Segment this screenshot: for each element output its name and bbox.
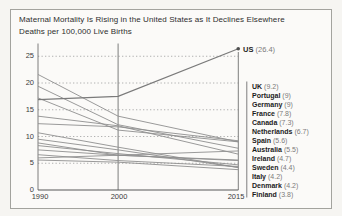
legend-row-italy: Italy (4.2) xyxy=(252,172,309,181)
chart-title: Maternal Mortality Is Rising in the Unit… xyxy=(19,14,285,26)
y-tick-5: 5 xyxy=(10,158,34,167)
legend-row-australia: Australia (5.5) xyxy=(252,145,309,154)
legend-country-name: UK xyxy=(252,83,262,90)
legend-country-value: (7.3) xyxy=(277,119,293,126)
series-line-us xyxy=(38,49,238,100)
legend-country-name: Finland xyxy=(252,191,277,198)
us-endpoint-marker xyxy=(236,47,240,51)
x-tick-1990: 1990 xyxy=(24,192,56,201)
legend-row-france: France (7.8) xyxy=(252,109,309,118)
us-series-value: (26.4) xyxy=(256,45,276,54)
legend-country-value: (4.2) xyxy=(266,173,282,180)
legend-country-name: Australia xyxy=(252,146,282,153)
legend-row-sweden: Sweden (4.4) xyxy=(252,163,309,172)
legend-row-ireland: Ireland (4.7) xyxy=(252,154,309,163)
legend-row-germany: Germany (9) xyxy=(252,100,309,109)
chart-subtitle: Deaths per 100,000 Live Births xyxy=(19,26,285,38)
y-tick-25: 25 xyxy=(10,51,34,60)
legend-country-value: (4.4) xyxy=(278,164,294,171)
legend-row-portugal: Portugal (9) xyxy=(252,91,309,100)
legend-country-value: (5.5) xyxy=(282,146,298,153)
y-tick-15: 15 xyxy=(10,105,34,114)
x-tick-2015: 2015 xyxy=(220,192,252,201)
legend-country-name: Portugal xyxy=(252,92,280,99)
legend-country-value: (4.7) xyxy=(275,155,291,162)
legend-country-name: Sweden xyxy=(252,164,278,171)
us-series-label: US (26.4) xyxy=(243,45,275,54)
legend-country-name: Canada xyxy=(252,119,277,126)
legend-country-name: Germany xyxy=(252,101,282,108)
legend-country-name: Denmark xyxy=(252,182,282,189)
legend-country-value: (7.8) xyxy=(275,110,291,117)
legend-country-value: (5.6) xyxy=(271,137,287,144)
legend-country-value: (9.2) xyxy=(262,83,278,90)
legend-row-denmark: Denmark (4.2) xyxy=(252,181,309,190)
legend-row-spain: Spain (5.6) xyxy=(252,136,309,145)
x-tick-2000: 2000 xyxy=(103,192,135,201)
legend-row-uk: UK (9.2) xyxy=(252,82,309,91)
y-tick-10: 10 xyxy=(10,132,34,141)
us-series-name: US xyxy=(243,45,253,54)
legend-row-canada: Canada (7.3) xyxy=(252,118,309,127)
legend-row-netherlands: Netherlands (6.7) xyxy=(252,127,309,136)
legend-country-name: Ireland xyxy=(252,155,275,162)
legend-country-name: France xyxy=(252,110,275,117)
country-legend: UK (9.2)Portugal (9)Germany (9)France (7… xyxy=(252,82,309,199)
legend-country-name: Spain xyxy=(252,137,271,144)
legend-country-value: (9) xyxy=(282,101,293,108)
chart-title-block: Maternal Mortality Is Rising in the Unit… xyxy=(19,14,285,37)
legend-country-value: (6.7) xyxy=(292,128,308,135)
legend-country-value: (3.8) xyxy=(277,191,293,198)
y-tick-20: 20 xyxy=(10,78,34,87)
legend-country-name: Netherlands xyxy=(252,128,292,135)
legend-country-name: Italy xyxy=(252,173,266,180)
legend-country-value: (4.2) xyxy=(282,182,298,189)
legend-row-finland: Finland (3.8) xyxy=(252,190,309,199)
legend-country-value: (9) xyxy=(280,92,291,99)
